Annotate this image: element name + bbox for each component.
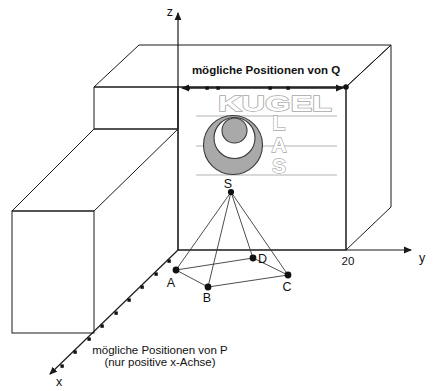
- vertex-dot-a: [173, 267, 180, 274]
- geometry-diagram: KUGEL L A S mögliche Positionen von Q z …: [0, 0, 434, 391]
- y-axis-label: y: [419, 251, 426, 265]
- pyramid-edges: [176, 192, 288, 287]
- q-dot: [286, 86, 289, 89]
- p-dot: [60, 364, 63, 367]
- vertex-dot-c: [285, 272, 292, 279]
- p-dot: [73, 350, 76, 353]
- p-positions-annotation-line1: mögliche Positionen von P: [92, 344, 228, 356]
- logo-letter-s: S: [272, 154, 286, 177]
- p-dot: [114, 311, 117, 314]
- p-dot: [100, 324, 103, 327]
- x-axis-label: x: [56, 375, 63, 389]
- q-dot-corner: [343, 84, 349, 90]
- sphere-emblem-inner-circle: [222, 118, 247, 143]
- pyramid-edge-bc: [208, 275, 288, 287]
- figure-canvas: KUGEL L A S mögliche Positionen von Q z …: [0, 0, 434, 391]
- p-dot: [140, 285, 143, 288]
- logo-letter-a: A: [271, 133, 286, 156]
- front-block-top-face: [12, 129, 178, 211]
- front-block-front-face: [12, 211, 94, 333]
- wall-right-side-face: [346, 45, 391, 250]
- q-dot: [268, 86, 271, 89]
- vertex-label-s: S: [224, 177, 232, 191]
- z-axis-label: z: [167, 5, 173, 19]
- p-dot: [127, 298, 130, 301]
- pyramid-edge-sa: [176, 192, 231, 270]
- q-positions-annotation: mögliche Positionen von Q: [192, 64, 340, 76]
- pyramid-edge-sd: [231, 192, 253, 258]
- vertex-dot-d: [250, 255, 257, 262]
- vertex-label-a: A: [167, 276, 176, 290]
- pyramid-edge-sb: [208, 192, 231, 287]
- vertex-label-b: B: [203, 291, 211, 305]
- y-axis-tick-20: 20: [342, 255, 355, 267]
- p-positions-annotation-line2: (nur positive x-Achse): [104, 356, 215, 368]
- pyramid-edge-ab: [176, 270, 208, 287]
- back-block-left-front-face: [94, 87, 178, 129]
- p-dot: [87, 337, 90, 340]
- q-dot: [186, 86, 189, 89]
- vertex-label-c: C: [282, 280, 291, 294]
- p-dot: [154, 272, 157, 275]
- logo-letter-l: L: [273, 111, 286, 134]
- q-dot: [205, 86, 208, 89]
- vertex-dot-b: [205, 284, 212, 291]
- q-dot: [216, 86, 219, 89]
- pyramid-vertices: [173, 189, 292, 291]
- p-dot: [167, 259, 170, 262]
- vertex-label-d: D: [258, 252, 267, 266]
